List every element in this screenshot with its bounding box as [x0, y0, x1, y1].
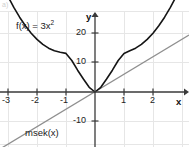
- parabola-curve: [5, 0, 182, 92]
- x-tick-label-neg1: -1: [60, 96, 68, 105]
- y-axis-label: y: [86, 12, 91, 22]
- x-tick-label-2: 2: [150, 96, 155, 105]
- y-tick-label-10: 10: [76, 57, 86, 66]
- secant-function-label: msek(x): [25, 128, 59, 138]
- x-axis-label: x: [176, 97, 181, 107]
- x-tick-label-neg2: -2: [31, 96, 39, 105]
- graph-figure: a): [0, 0, 189, 147]
- y-tick-label-20: 20: [76, 28, 86, 37]
- x-tick-label-neg3: -3: [2, 96, 10, 105]
- y-tick-label-neg10: -10: [73, 116, 86, 125]
- parabola-function-label-exponent: 2: [51, 19, 55, 26]
- parabola-function-label-text: f(x) = 3x: [16, 20, 51, 31]
- y-axis-arrowhead: [91, 12, 98, 17]
- x-axis-arrowhead: [184, 88, 189, 95]
- parabola-function-label: f(x) = 3x2: [16, 21, 54, 31]
- tick-marks: [8, 33, 153, 121]
- x-tick-label-1: 1: [121, 96, 126, 105]
